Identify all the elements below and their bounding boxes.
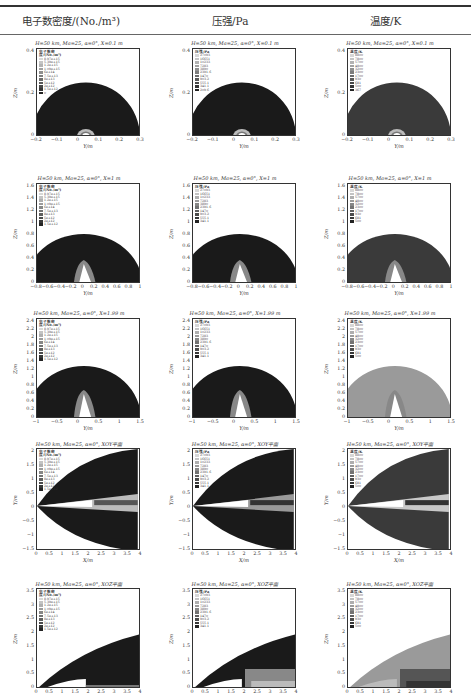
x-tick-label: 1 — [268, 419, 282, 424]
y-tick-label: 0.5 — [174, 490, 190, 495]
legend-label: 209.6 — [200, 88, 209, 92]
y-tick-label: 1.5 — [18, 643, 34, 648]
y-tick-label: 1 — [174, 374, 190, 379]
x-tick-label: 2 — [392, 551, 406, 556]
y-tick-label: 1 — [18, 476, 34, 481]
x-axis-label: Y/m — [192, 143, 296, 149]
legend-swatch — [39, 82, 43, 85]
y-axis-label: Z/m — [12, 364, 18, 374]
x-tick-label: 1 — [55, 551, 69, 556]
y-axis-label: Z/m — [12, 88, 18, 98]
legend-swatch — [350, 475, 354, 478]
y-tick-label: 0.4 — [18, 398, 34, 403]
x-axis-label: X/m — [347, 557, 451, 563]
x-tick-label: 1.5 — [68, 551, 82, 556]
y-tick-label: 2 — [329, 629, 345, 634]
plot-title: H=50 km, Ma=25, α=0°, X=0.1 m — [160, 40, 310, 46]
x-tick-label: 4 — [133, 551, 147, 556]
legend-swatch — [195, 601, 199, 604]
legend-swatch — [39, 468, 43, 471]
plot-title: H=50 km, Ma=25, α=0°, X=1 m — [4, 175, 154, 181]
legend-pressure: 压强/Pa270931665110233728338902391.6147090… — [195, 591, 231, 629]
legend-swatch — [350, 54, 354, 57]
legend-swatch — [39, 92, 43, 95]
x-tick-label: 4 — [289, 689, 303, 694]
x-tick-label: −0.5 — [361, 419, 375, 424]
legend-swatch — [350, 217, 354, 220]
y-tick-label: 0.8 — [174, 382, 190, 387]
legend-swatch — [195, 85, 199, 88]
y-tick-label: 2 — [18, 448, 34, 453]
y-tick-label: 0.2 — [329, 406, 345, 411]
legend-label: 341.1 — [200, 484, 209, 488]
x-tick-label: 1 — [55, 689, 69, 694]
y-tick-label: 0.8 — [329, 382, 345, 387]
legend-swatch — [350, 78, 354, 81]
y-tick-label: 0.2 — [18, 90, 34, 95]
y-tick-label: 1.8 — [174, 342, 190, 347]
x-tick-label: 1.5 — [133, 419, 147, 424]
contour-plot-area: 电子数密度/(No./m³)8.97e+155.39e+151.2e+151.0… — [36, 448, 140, 550]
y-tick-label: 1.4 — [329, 195, 345, 200]
legend-entry: 341.1 — [195, 485, 231, 488]
legend-swatch — [350, 58, 354, 61]
legend-swatch — [350, 203, 354, 206]
top-rule — [0, 5, 471, 7]
y-tick-label: 1 — [174, 476, 190, 481]
plot-cell-electron-row3: H=50 km, Ma=25, α=0°, X=1.99 m电子数密度/(No.… — [4, 310, 154, 440]
legend-swatch — [39, 68, 43, 71]
y-tick-label: 1 — [329, 476, 345, 481]
legend-swatch — [195, 54, 199, 57]
legend-swatch — [39, 58, 43, 61]
legend-swatch — [39, 611, 43, 614]
contour-plot-area: 电子数密度/(No./m³)8.97e+155.39e+151.2e+151.0… — [36, 318, 140, 418]
legend-swatch — [39, 210, 43, 213]
y-tick-label: 1.6 — [18, 350, 34, 355]
x-tick-label: 3.5 — [120, 689, 134, 694]
x-tick-label: 0 — [227, 419, 241, 424]
y-tick-label: 1.4 — [18, 358, 34, 363]
legend-label: 1.5e+12 — [44, 358, 58, 362]
legend-swatch — [350, 75, 354, 78]
legend-swatch — [39, 345, 43, 348]
x-tick-label: 2 — [81, 689, 95, 694]
plot-cell-pressure-row1: H=50 km, Ma=25, α=0°, X=0.1 m压强/Pa270931… — [160, 40, 310, 158]
column-header-pressure: 压强/Pa — [212, 13, 248, 28]
legend-swatch — [39, 71, 43, 74]
y-tick-label: 0.6 — [174, 390, 190, 395]
legend-label: 500 — [355, 219, 361, 223]
y-tick-label: −1 — [174, 532, 190, 537]
x-tick-label: 4 — [133, 689, 147, 694]
y-tick-label: 3.5 — [18, 588, 34, 593]
y-tick-label: 0.4 — [329, 48, 345, 53]
legend-swatch — [195, 468, 199, 471]
x-tick-label: 1 — [133, 284, 147, 289]
x-tick-label: 4 — [289, 551, 303, 556]
legend-swatch — [39, 604, 43, 607]
x-tick-label: 0 — [227, 137, 241, 142]
legend-swatch — [350, 465, 354, 468]
legend-label: 500 — [355, 624, 361, 628]
contour-plot-area: 压强/Pa270931665110233728338902391.6147090… — [192, 588, 296, 688]
y-tick-label: 3 — [174, 602, 190, 607]
y-tick-label: 0.4 — [174, 398, 190, 403]
legend-swatch — [350, 335, 354, 338]
y-tick-label: 0 — [329, 504, 345, 509]
legend-swatch — [195, 605, 199, 608]
x-tick-label: 0 — [340, 689, 354, 694]
legend-swatch — [350, 605, 354, 608]
legend-swatch — [39, 601, 43, 604]
x-tick-label: −0.1 — [361, 137, 375, 142]
y-tick-label: 0.8 — [329, 231, 345, 236]
legend-swatch — [195, 475, 199, 478]
legend-swatch — [195, 196, 199, 199]
legend-electron: 电子数密度/(No./m³)8.97e+155.39e+151.2e+151.0… — [39, 186, 75, 227]
x-tick-label: 1.5 — [224, 689, 238, 694]
y-tick-label: 1 — [18, 219, 34, 224]
y-tick-label: 1.2 — [174, 366, 190, 371]
legend-swatch — [39, 341, 43, 344]
legend-swatch — [39, 196, 43, 199]
x-tick-label: 1 — [366, 551, 380, 556]
legend-label: 341.1 — [200, 354, 209, 358]
legend-swatch — [195, 625, 199, 628]
